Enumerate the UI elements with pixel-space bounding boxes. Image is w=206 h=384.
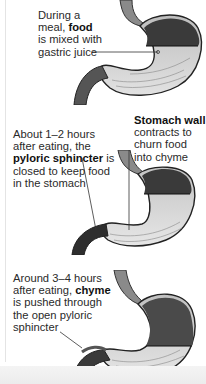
bold-term-food: food [68,21,92,33]
panel-2-secondary-label: Stomach wall contracts to churn food int… [134,114,206,163]
panel-3-label: Around 3–4 hours after eating, chyme is … [13,272,111,333]
bold-term-pyloric-sphincter: pyloric sphincter [13,152,103,164]
left-rule [5,0,6,362]
bold-term-chyme: chyme [75,284,110,296]
panel-2-label: About 1–2 hours after eating, the pylori… [13,128,114,189]
bold-term-stomach-wall: Stomach wall [134,114,206,126]
panel-1-label: During a meal, food is mixed with gastri… [38,9,102,58]
bottom-band [0,366,206,384]
